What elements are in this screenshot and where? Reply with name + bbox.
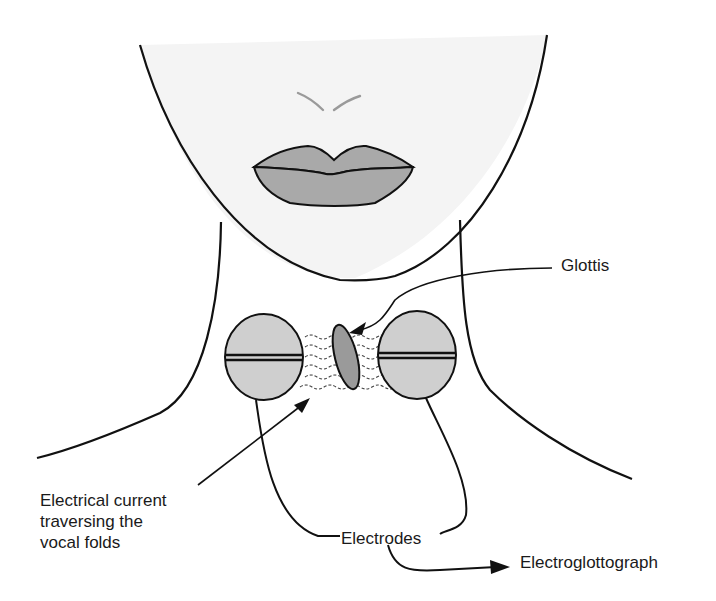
- right-electrode-icon: [378, 311, 456, 399]
- left-electrode-icon: [225, 314, 303, 400]
- glottis-arrowhead-icon: [349, 322, 366, 335]
- electroglottograph-label: Electroglottograph: [520, 552, 658, 573]
- egg-arrowhead-icon: [490, 560, 510, 574]
- right-electrode-lead: [426, 398, 466, 534]
- glottis-label: Glottis: [561, 255, 609, 276]
- current-arrowhead-icon: [294, 398, 310, 413]
- current-pointer: [198, 405, 302, 485]
- electrodes-label: Electrodes: [341, 528, 421, 549]
- neck-left-line: [37, 222, 221, 458]
- current-label: Electrical current traversing the vocal …: [40, 490, 167, 553]
- left-electrode-lead: [256, 400, 340, 536]
